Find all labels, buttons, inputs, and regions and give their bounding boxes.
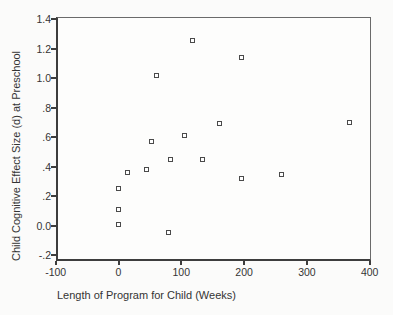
y-axis-tick [51, 225, 56, 227]
x-axis-tick-label: 100 [159, 266, 203, 278]
plot-area [56, 17, 371, 261]
x-axis-tick-label: 0 [97, 266, 141, 278]
scatter-chart-figure: Child Cognitive Effect Size (d) at Presc… [0, 0, 393, 315]
data-point-marker [116, 207, 121, 212]
data-point-marker [166, 230, 171, 235]
data-point-marker [239, 176, 244, 181]
data-point-marker [116, 186, 121, 191]
data-point-marker [217, 121, 222, 126]
data-point-marker [168, 157, 173, 162]
y-axis-tick [51, 107, 56, 109]
y-axis-tick [51, 254, 56, 256]
y-axis-tick-label: 0.0 [12, 220, 51, 232]
data-point-marker [347, 120, 352, 125]
y-axis-tick-label: -.2 [12, 249, 51, 261]
x-axis-tick [55, 261, 57, 265]
data-point-marker [239, 55, 244, 60]
y-axis-tick-label: 1.2 [12, 43, 51, 55]
y-axis-tick-label: .4 [12, 161, 51, 173]
x-axis-tick-label: 200 [222, 266, 266, 278]
x-axis-tick [306, 261, 308, 265]
x-axis-tick-label: -100 [34, 266, 78, 278]
data-point-marker [144, 167, 149, 172]
y-axis-tick-label: .6 [12, 131, 51, 143]
y-axis-tick-label: .8 [12, 102, 51, 114]
data-point-marker [182, 133, 187, 138]
x-axis-tick [369, 261, 371, 265]
x-axis-tick [118, 261, 120, 265]
data-point-marker [116, 222, 121, 227]
data-point-marker [154, 73, 159, 78]
x-axis-title: Length of Program for Child (Weeks) [57, 289, 236, 301]
data-point-marker [149, 139, 154, 144]
y-axis-tick [51, 195, 56, 197]
x-axis-tick-label: 400 [348, 266, 392, 278]
x-axis-tick [243, 261, 245, 265]
y-axis-tick [51, 18, 56, 20]
data-point-marker [125, 170, 130, 175]
x-axis-tick-label: 300 [285, 266, 329, 278]
data-point-marker [190, 38, 195, 43]
y-axis-tick [51, 166, 56, 168]
x-axis-tick [180, 261, 182, 265]
y-axis-tick-label: 1.4 [12, 13, 51, 25]
data-point-marker [279, 172, 284, 177]
y-axis-tick-label: 1.0 [12, 72, 51, 84]
y-axis-tick [51, 77, 56, 79]
y-axis-tick [51, 136, 56, 138]
y-axis-tick-label: .2 [12, 190, 51, 202]
data-point-marker [200, 157, 205, 162]
y-axis-tick [51, 48, 56, 50]
